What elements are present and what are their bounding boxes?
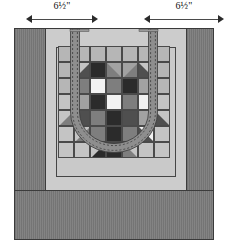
- quilt-patch: [122, 94, 138, 110]
- quilt-patch: [90, 110, 106, 126]
- quilt-patch: [122, 78, 138, 94]
- quilt-patch: [106, 126, 122, 142]
- quilt-patch: [138, 78, 154, 94]
- quilt-patch: [122, 46, 138, 62]
- arrow-left-icon: [144, 15, 150, 23]
- quilt-patch: [58, 94, 74, 110]
- quilt-patch: [58, 142, 74, 158]
- quilt-patch: [138, 142, 154, 158]
- quilt-patch: [154, 110, 170, 126]
- quilt-patch: [74, 142, 90, 158]
- dimension-right-label: 6½": [144, 0, 224, 12]
- bag-baseline: [14, 239, 214, 240]
- dimension-right-line: [148, 19, 220, 20]
- quilt-patch: [90, 94, 106, 110]
- quilt-patch: [138, 126, 154, 142]
- quilt-patch: [90, 142, 106, 158]
- quilt-patch: [138, 110, 154, 126]
- quilt-patch: [154, 142, 170, 158]
- bag-bottom-panel: [15, 190, 213, 239]
- quilt-patch-triangle: [106, 62, 122, 78]
- quilt-patch: [122, 142, 138, 158]
- quilt-patch: [58, 78, 74, 94]
- quilt-patch-triangle: [90, 142, 106, 158]
- quilt-patch: [122, 110, 138, 126]
- dimension-left-label: 6½": [26, 0, 98, 12]
- quilt-patch: [74, 78, 90, 94]
- dimension-left-side-width: 6½": [26, 0, 98, 28]
- quilt-patch: [138, 62, 154, 78]
- dimension-left-line: [30, 19, 94, 20]
- dimension-row: 6½" 6½": [0, 0, 228, 28]
- quilt-patch-triangle: [122, 142, 138, 158]
- tote-bag-diagram: 6½" 6½": [0, 0, 228, 249]
- quilt-patch: [106, 110, 122, 126]
- quilt-patch: [154, 46, 170, 62]
- quilt-patch: [154, 94, 170, 110]
- quilt-patch: [154, 62, 170, 78]
- arrow-right-icon: [218, 15, 224, 23]
- quilt-patch: [90, 62, 106, 78]
- quilt-patch: [58, 110, 74, 126]
- quilt-patch: [154, 126, 170, 142]
- dimension-right-side-width: 6½": [144, 0, 224, 28]
- quilt-patch: [122, 62, 138, 78]
- quilt-patch-triangle: [154, 110, 170, 126]
- quilt-patch: [58, 46, 74, 62]
- quilt-patch: [106, 78, 122, 94]
- quilt-patch-triangle: [74, 62, 90, 78]
- quilt-patch: [90, 46, 106, 62]
- quilt-patch: [90, 78, 106, 94]
- quilt-patch-triangle: [138, 126, 154, 142]
- quilt-patch: [58, 62, 74, 78]
- quilt-patch-triangle: [74, 126, 90, 142]
- quilt-patch: [138, 46, 154, 62]
- quilt-patch-triangle: [122, 62, 138, 78]
- quilt-patch: [122, 126, 138, 142]
- quilt-patch: [154, 78, 170, 94]
- quilt-patch: [74, 126, 90, 142]
- quilt-patch: [106, 62, 122, 78]
- arrow-left-icon: [26, 15, 32, 23]
- quilt-patch: [74, 46, 90, 62]
- quilt-patch: [106, 142, 122, 158]
- quilt-patch-triangle: [58, 110, 74, 126]
- quilt-patch: [74, 62, 90, 78]
- heart-quilt-block: [58, 46, 170, 158]
- quilt-patch: [106, 46, 122, 62]
- quilt-patch: [90, 126, 106, 142]
- quilt-patch: [58, 126, 74, 142]
- quilt-patch: [138, 94, 154, 110]
- quilt-patch: [74, 94, 90, 110]
- arrow-right-icon: [92, 15, 98, 23]
- quilt-patch-triangle: [138, 62, 154, 78]
- quilt-patch: [106, 94, 122, 110]
- quilt-patch: [74, 110, 90, 126]
